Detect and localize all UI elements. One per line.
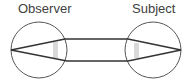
subject-eye-circle (125, 22, 181, 78)
upper-sight-line (11, 39, 181, 50)
lower-sight-line (11, 50, 181, 61)
eye-contact-diagram (0, 0, 191, 81)
observer-lens (53, 42, 58, 58)
observer-eye-circle (11, 22, 67, 78)
subject-lens (134, 43, 139, 58)
